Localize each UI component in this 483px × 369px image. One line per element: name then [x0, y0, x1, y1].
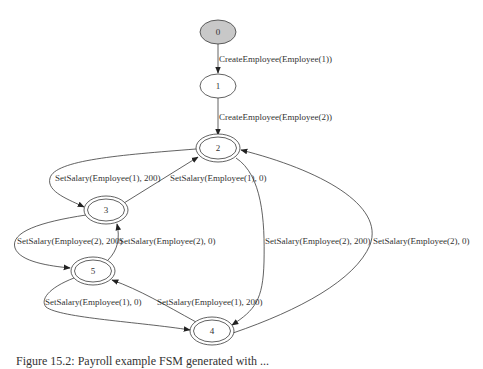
edge-label-5-4: SetSalary(Employee(1), 0) — [45, 297, 141, 307]
node-0-label: 0 — [216, 27, 221, 37]
node-0: 0 — [200, 20, 236, 44]
edge-label-4-5: SetSalary(Employee(1), 200) — [157, 297, 262, 307]
edge-label-5-3: SetSalary(Employee(2), 0) — [119, 236, 215, 246]
edges — [14, 44, 372, 333]
edge-label-0-1: CreateEmployee(Employee(1)) — [219, 54, 332, 64]
figure-caption: Figure 15.2: Payroll example FSM generat… — [16, 354, 269, 369]
edge-label-1-2: CreateEmployee(Employee(2)) — [219, 112, 332, 122]
edge-label-3-2: SetSalary(Employee(1), 0) — [170, 173, 266, 183]
node-5: 5 — [71, 257, 115, 285]
node-2-label: 2 — [216, 143, 221, 153]
edge-label-2-4: SetSalary(Employee(2), 200) — [265, 236, 370, 246]
node-1: 1 — [200, 74, 236, 98]
edge-label-3-5: SetSalary(Employee(2), 200) — [17, 236, 122, 246]
node-3: 3 — [84, 196, 128, 224]
edge-label-4-2: SetSalary(Employee(2), 0) — [373, 236, 469, 246]
node-4-label: 4 — [210, 326, 215, 336]
node-3-label: 3 — [104, 205, 109, 215]
node-2: 2 — [196, 134, 240, 162]
node-4: 4 — [190, 317, 234, 345]
node-5-label: 5 — [91, 266, 96, 276]
node-1-label: 1 — [216, 81, 221, 91]
edge-label-2-3: SetSalary(Employee(1), 200) — [55, 173, 160, 183]
